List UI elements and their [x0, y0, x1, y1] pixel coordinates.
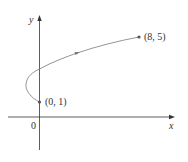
parametric-curve [26, 37, 139, 102]
direction-arrow-icon [75, 52, 81, 55]
y-axis-arrow-icon [37, 15, 41, 21]
x-axis-arrow-icon [169, 115, 175, 119]
end-point [137, 35, 140, 38]
x-axis-label: x [169, 121, 173, 131]
origin-label: 0 [31, 121, 36, 131]
start-point [38, 100, 41, 103]
y-axis-label: y [29, 15, 33, 25]
end-point-label: (8, 5) [144, 32, 166, 42]
start-point-label: (0, 1) [45, 97, 67, 107]
